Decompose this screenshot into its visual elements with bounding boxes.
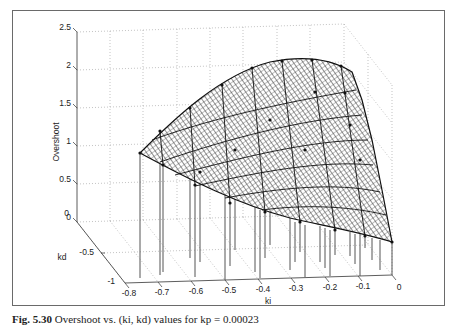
x-tick: 0 bbox=[397, 282, 402, 292]
x-tick: -0.7 bbox=[155, 287, 170, 297]
caption-text: Overshoot vs. (ki, kd) values for kp = 0… bbox=[55, 313, 259, 325]
figure-caption: Fig. 5.30 Overshoot vs. (ki, kd) values … bbox=[12, 313, 259, 325]
y-tick: -1 bbox=[107, 276, 115, 286]
z-tick: 0.5 bbox=[59, 174, 71, 184]
x-axis-label: ki bbox=[265, 296, 271, 306]
mesh-surface bbox=[138, 58, 393, 243]
x-tick: -0.6 bbox=[189, 286, 204, 296]
surface-plot: 2.5 2 1.5 1 0.5 0 Overshoot 0 -0.5 -1 kd… bbox=[0, 0, 456, 310]
x-axis: -0.8 -0.7 -0.6 -0.5 -0.4 -0.3 -0.2 -0.1 … bbox=[122, 275, 402, 306]
caption-label: Fig. 5.30 bbox=[12, 313, 52, 325]
x-tick: -0.3 bbox=[289, 283, 304, 293]
z-axis-label: Overshoot bbox=[51, 122, 61, 162]
y-axis-label: kd bbox=[58, 252, 67, 262]
y-tick: -0.5 bbox=[79, 247, 94, 257]
z-tick: 1.5 bbox=[59, 98, 71, 108]
x-tick: -0.1 bbox=[356, 281, 371, 291]
y-tick: 0 bbox=[64, 208, 69, 218]
x-tick: -0.8 bbox=[122, 288, 137, 298]
x-tick: -0.2 bbox=[323, 282, 338, 292]
z-tick: 1 bbox=[66, 136, 71, 146]
x-tick: -0.4 bbox=[256, 284, 271, 294]
x-tick: -0.5 bbox=[222, 285, 237, 295]
z-tick: 2 bbox=[66, 60, 71, 70]
z-axis: 2.5 2 1.5 1 0.5 0 Overshoot bbox=[51, 22, 77, 222]
z-tick: 2.5 bbox=[59, 22, 71, 32]
